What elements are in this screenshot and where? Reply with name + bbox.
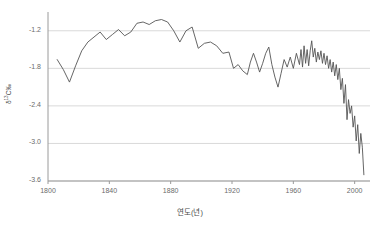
x-axis-tick-label: 1880 <box>151 187 191 194</box>
y-axis-tick-label: -3.6 <box>15 176 41 183</box>
x-axis-tick-label: 1960 <box>273 187 313 194</box>
y-axis-tick-label: -3.0 <box>15 138 41 145</box>
x-axis-tick-label: 1920 <box>212 187 252 194</box>
y-axis-tick-label: -1.8 <box>15 63 41 70</box>
chart-container: δ13C‰ 연도(년) -1.2-1.8-2.4-3.0-3.618001840… <box>0 0 380 227</box>
data-series-line <box>57 20 364 175</box>
y-axis-tick-label: -1.2 <box>15 26 41 33</box>
y-axis-tick-label: -2.4 <box>15 101 41 108</box>
y-axis-title: δ13C‰ <box>0 78 16 120</box>
x-axis-tick-label: 1840 <box>89 187 129 194</box>
x-axis-tick-label: 1800 <box>28 187 68 194</box>
y-axis-title-text: δ13C‰ <box>4 73 12 115</box>
x-axis-title: 연도(년) <box>0 206 380 217</box>
x-axis-tick-label: 2000 <box>335 187 375 194</box>
